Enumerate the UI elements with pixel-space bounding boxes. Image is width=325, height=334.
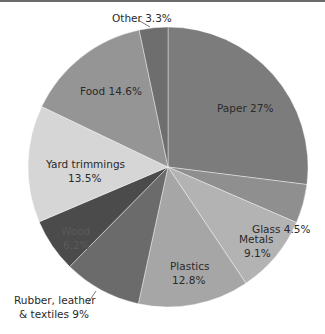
label-yard-trimmings-line2: 13.5% [68, 172, 101, 184]
label-wood-line2: 6.2% [63, 239, 90, 251]
label-plastics-line1: Plastics [170, 260, 209, 272]
label-metals-line1: Metals [239, 233, 273, 245]
label-plastics-line2: 12.8% [172, 274, 205, 286]
label-metals-line2: 9.1% [244, 247, 271, 259]
label-paper: Paper 27% [217, 102, 273, 114]
label-rubber-line1: Rubber, leather [14, 294, 96, 306]
label-food: Food 14.6% [80, 85, 142, 97]
label-wood-line1: Wood [61, 225, 90, 237]
pie-chart: Other 3.3% Food 14.6% Paper 27% Glass 4.… [0, 0, 325, 334]
label-rubber-line2: & textiles 9% [19, 308, 89, 320]
label-yard-trimmings-line1: Yard trimmings [45, 158, 125, 170]
